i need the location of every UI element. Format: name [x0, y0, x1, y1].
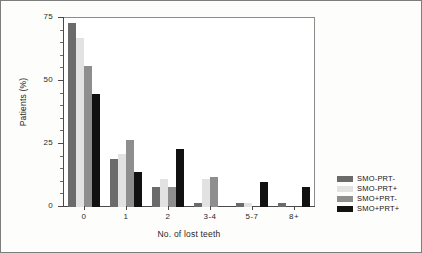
- x-axis-tick-label: 2: [146, 212, 190, 221]
- bar: [260, 182, 268, 207]
- legend-swatch: [337, 196, 353, 202]
- x-axis-tick-label: 5-7: [230, 212, 274, 221]
- legend-label: SMO-PRT+: [357, 184, 397, 193]
- x-axis-tick: [252, 206, 253, 210]
- y-axis-title: Patients (%): [18, 42, 28, 162]
- legend-label: SMO+PRT-: [357, 194, 397, 203]
- bar-group: [68, 18, 100, 207]
- bar: [176, 149, 184, 207]
- legend-item: SMO-PRT-: [337, 174, 399, 183]
- x-axis-tick-label: 0: [62, 212, 106, 221]
- bar: [302, 187, 310, 207]
- bar-group: [236, 18, 268, 207]
- bar: [168, 187, 176, 207]
- legend-label: SMO+PRT+: [357, 204, 399, 213]
- bar: [126, 140, 134, 207]
- bar: [160, 179, 168, 207]
- bar-group: [278, 18, 310, 207]
- bar: [134, 172, 142, 207]
- legend-item: SMO-PRT+: [337, 184, 399, 193]
- x-axis-tick: [84, 206, 85, 210]
- legend-swatch: [337, 186, 353, 192]
- x-axis-title: No. of lost teeth: [63, 229, 315, 239]
- bar: [84, 66, 92, 207]
- bar: [152, 187, 160, 207]
- bar: [236, 203, 244, 207]
- x-axis-tick: [210, 206, 211, 210]
- bar: [110, 159, 118, 207]
- bar-group: [110, 18, 142, 207]
- bar: [244, 203, 252, 207]
- bar: [194, 203, 202, 207]
- bar: [278, 203, 286, 207]
- legend-label: SMO-PRT-: [357, 174, 395, 183]
- legend: SMO-PRT-SMO-PRT+SMO+PRT-SMO+PRT+: [337, 174, 399, 214]
- bar-group: [194, 18, 226, 207]
- x-axis-tick: [168, 206, 169, 210]
- x-axis-tick-label: 1: [104, 212, 148, 221]
- legend-item: SMO+PRT+: [337, 204, 399, 213]
- bar: [76, 38, 84, 207]
- y-axis-tick-label: 0: [13, 201, 53, 210]
- legend-swatch: [337, 176, 353, 182]
- x-axis-tick-label: 3-4: [188, 212, 232, 221]
- bar: [118, 154, 126, 207]
- legend-swatch: [337, 206, 353, 212]
- x-axis-tick: [294, 206, 295, 210]
- bar: [210, 177, 218, 207]
- figure-container: 0255075 Patients (%) 0123-45-78+ No. of …: [0, 0, 422, 253]
- bar: [92, 94, 100, 207]
- bar-series-layer: [63, 17, 315, 207]
- x-axis-tick: [126, 206, 127, 210]
- legend-item: SMO+PRT-: [337, 194, 399, 203]
- bar: [202, 179, 210, 207]
- x-axis-tick-label: 8+: [272, 212, 316, 221]
- bar-group: [152, 18, 184, 207]
- y-axis-tick-label: 75: [13, 12, 53, 21]
- bar: [68, 23, 76, 207]
